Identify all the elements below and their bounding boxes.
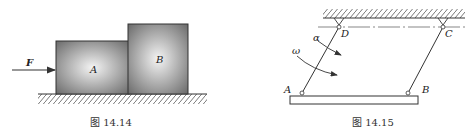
figure-14-14: F A B 图 14.14 xyxy=(12,24,207,128)
point-a-label: A xyxy=(283,84,291,95)
link-ad xyxy=(302,27,339,93)
pivot-c-support xyxy=(438,18,448,25)
block-b-label: B xyxy=(155,54,163,65)
figure-14-15: α ω D C A B 图 14.15 xyxy=(283,9,465,128)
ground-hatching xyxy=(38,94,207,104)
figure-caption: 图 14.15 xyxy=(352,117,394,128)
block-a-label: A xyxy=(89,64,97,75)
bar-ab xyxy=(290,96,418,104)
force-label: F xyxy=(25,57,34,68)
joint-b xyxy=(406,91,410,95)
ceiling-hatching xyxy=(323,9,465,18)
alpha-label: α xyxy=(313,32,320,43)
point-c-label: C xyxy=(445,28,453,39)
pivot-d-support xyxy=(334,18,344,25)
figure-caption: 图 14.14 xyxy=(90,117,132,128)
point-b-label: B xyxy=(421,84,429,95)
omega-label: ω xyxy=(292,45,300,56)
joint-a xyxy=(300,91,304,95)
point-d-label: D xyxy=(340,28,349,39)
diagram-canvas: F A B 图 14.14 α ω D C A B 图 14.15 xyxy=(0,0,474,136)
